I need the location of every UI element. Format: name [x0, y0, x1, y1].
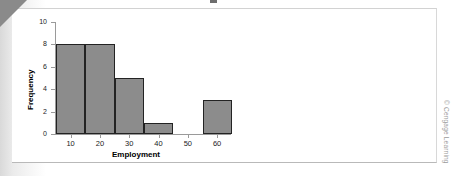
y-tick-label: 8 [31, 40, 47, 47]
figure-page: 10 8 6 4 2 0 Frequency 10 20 30 40 50 6 [0, 0, 461, 176]
histogram-bar [56, 44, 85, 134]
histogram-bar [203, 100, 232, 134]
x-axis-title: Employment [112, 150, 160, 159]
x-tick-mark [129, 135, 130, 138]
y-tick-mark [51, 22, 55, 23]
x-tick-label: 10 [58, 139, 84, 148]
y-tick-mark [51, 89, 55, 90]
x-tick-mark [71, 135, 72, 138]
histogram-chart: 10 8 6 4 2 0 Frequency 10 20 30 40 50 6 [0, 0, 461, 176]
x-tick-label: 50 [175, 139, 201, 148]
y-tick-mark [51, 134, 55, 135]
x-tick-label: 60 [204, 139, 230, 148]
y-tick-mark [51, 44, 55, 45]
x-tick-label: 20 [87, 139, 113, 148]
histogram-bar [144, 123, 173, 134]
x-tick-label: 30 [116, 139, 142, 148]
y-tick-mark [51, 67, 55, 68]
y-tick-label: 0 [31, 130, 47, 137]
y-axis-title: Frequency [26, 70, 35, 110]
x-tick-mark [217, 135, 218, 138]
y-tick-label: 10 [31, 18, 47, 25]
x-tick-mark [100, 135, 101, 138]
x-tick-label: 40 [146, 139, 172, 148]
copyright-credit: © Cengage Learning [443, 100, 450, 164]
histogram-bar [115, 78, 144, 134]
x-axis-line [55, 134, 231, 135]
y-tick-mark [51, 112, 55, 113]
x-tick-mark [159, 135, 160, 138]
x-tick-mark [188, 135, 189, 138]
histogram-bar [85, 44, 114, 134]
